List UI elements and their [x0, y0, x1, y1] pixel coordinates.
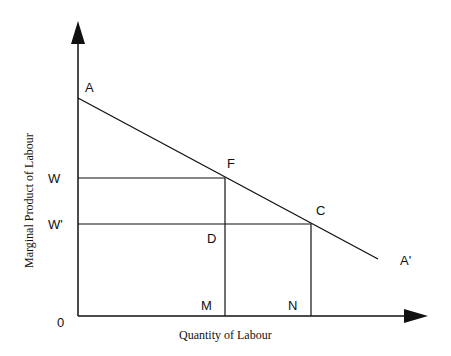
label-a-prime: A' [400, 253, 411, 268]
label-origin: 0 [57, 315, 64, 330]
label-a: A [85, 80, 94, 95]
label-c: C [316, 203, 325, 218]
y-axis-arrow-icon [71, 21, 85, 44]
marginal-product-diagram: A F C A' D M N W W' 0 Quantity of Labour… [0, 0, 451, 356]
label-d: D [207, 231, 216, 246]
x-axis-title: Quantity of Labour [179, 328, 272, 342]
label-n: N [288, 298, 297, 313]
label-f: F [227, 156, 235, 171]
label-m: M [201, 298, 212, 313]
label-w-prime: W' [48, 217, 63, 232]
y-axis-title: Marginal Product of Labour [22, 133, 36, 268]
x-axis-arrow-icon [404, 309, 428, 323]
label-w: W [48, 171, 61, 186]
